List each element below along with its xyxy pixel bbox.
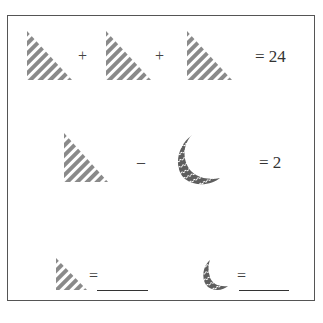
plus-operator: +	[78, 48, 87, 64]
plus-operator: +	[155, 48, 164, 64]
row2-result: = 2	[259, 154, 281, 171]
equals-sign: =	[89, 268, 98, 284]
triangle-icon	[106, 31, 152, 81]
triangle-icon	[187, 31, 233, 81]
crescent-icon	[175, 134, 223, 186]
crescent-icon	[202, 259, 230, 291]
minus-operator: –	[137, 154, 145, 170]
equals-sign: =	[237, 268, 246, 284]
triangle-icon	[64, 133, 110, 183]
triangle-icon	[56, 258, 88, 291]
triangle-answer-blank[interactable]	[97, 290, 148, 291]
crescent-answer-blank[interactable]	[239, 290, 289, 291]
row1-result: = 24	[255, 48, 286, 65]
triangle-icon	[27, 31, 73, 81]
